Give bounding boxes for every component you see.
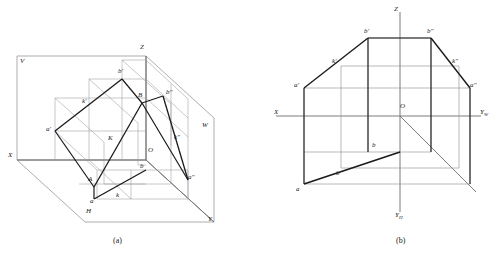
plane-label-h: H xyxy=(86,208,91,215)
panel-b-drawing xyxy=(248,0,495,259)
axis-label-yw: YW xyxy=(480,109,488,117)
point-label-a-front: a' xyxy=(46,126,51,133)
axis-label-z: Z xyxy=(394,6,398,13)
profile-projection-line xyxy=(431,38,470,88)
point-label-b-front: b' xyxy=(118,68,123,75)
point-label-b-side: b" xyxy=(427,28,433,35)
figure-root: V H W X Y Z O B A K a' b' k' a" b" k" a … xyxy=(0,0,495,259)
point-label-b-top: b xyxy=(372,142,376,149)
axis-label-yh-sub: H xyxy=(399,215,403,220)
panel-unfolded: X Z O YW YH a' b' k' a" b" k" a b b (b) xyxy=(248,0,495,259)
caption-a: (a) xyxy=(113,236,122,245)
point-label-A: A xyxy=(88,176,92,183)
axis-label-z: Z xyxy=(140,44,144,51)
frame-edges xyxy=(304,38,470,184)
point-label-b-top: b xyxy=(140,163,144,170)
axes-group xyxy=(276,12,481,212)
frontal-projection-line xyxy=(55,79,122,131)
v-plane-outline xyxy=(17,56,146,160)
axis-label-y-right: Y xyxy=(208,216,212,223)
point-label-B: B xyxy=(138,92,142,99)
point-label-k-top: k xyxy=(116,192,119,199)
construction-lines xyxy=(304,38,470,184)
axis-label-yw-sub: W xyxy=(484,112,488,117)
point-label-k-front: k' xyxy=(332,58,337,65)
point-label-a-side: a" xyxy=(470,82,476,89)
point-label-b-front: b' xyxy=(364,28,369,35)
point-label-k-front: k' xyxy=(82,98,87,105)
construction-lines xyxy=(55,60,188,199)
point-label-a-top: a xyxy=(296,186,300,193)
plane-label-w: W xyxy=(202,122,208,129)
axis-label-yh: YH xyxy=(395,212,403,220)
point-label-b-side: b" xyxy=(166,89,172,96)
point-label-k-side: k" xyxy=(174,134,180,141)
point-label-a-top: a xyxy=(90,198,94,205)
plane-label-v: V xyxy=(20,58,24,65)
caption-b: (b) xyxy=(396,236,405,245)
panel-axonometric: V H W X Y Z O B A K a' b' k' a" b" k" a … xyxy=(0,0,247,259)
axis-label-x: X xyxy=(274,109,278,116)
point-label-k-side: k" xyxy=(452,58,458,65)
point-label-k-top: b xyxy=(336,170,340,177)
spatial-line-AB xyxy=(94,103,142,187)
origin-label: O xyxy=(400,103,405,110)
point-label-K: K xyxy=(108,135,113,142)
axis-label-x: X xyxy=(8,152,12,159)
origin-label: O xyxy=(148,147,153,154)
point-label-a-side: a" xyxy=(188,174,194,181)
point-label-a-front: a' xyxy=(294,82,299,89)
